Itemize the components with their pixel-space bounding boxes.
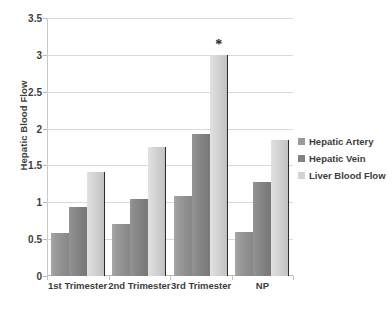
legend-item[interactable]: Liver Blood Flow bbox=[298, 168, 390, 183]
y-tick-mark bbox=[43, 202, 47, 203]
bar-liver-blood-flow bbox=[87, 172, 105, 276]
y-tick-label: 1 bbox=[8, 197, 42, 208]
bar-chart: Hepatic Blood Flow * 00.511.522.533.5 1s… bbox=[0, 0, 392, 312]
bar-hepatic-vein bbox=[69, 207, 87, 276]
y-tick-mark bbox=[43, 239, 47, 240]
legend-label: Liver Blood Flow bbox=[309, 170, 386, 181]
legend-label: Hepatic Vein bbox=[309, 153, 366, 164]
x-tick-mark bbox=[170, 276, 171, 280]
y-tick-label: 2.5 bbox=[8, 86, 42, 97]
chart-legend: Hepatic ArteryHepatic VeinLiver Blood Fl… bbox=[298, 134, 390, 185]
y-tick-mark bbox=[43, 92, 47, 93]
y-tick-label: 3.5 bbox=[8, 13, 42, 24]
bar-group bbox=[232, 18, 294, 276]
x-tick-label: 3rd Trimester bbox=[171, 279, 232, 299]
legend-swatch-icon bbox=[298, 138, 305, 145]
bar-hepatic-artery bbox=[51, 233, 69, 276]
bar-group bbox=[47, 18, 109, 276]
y-tick-mark bbox=[43, 55, 47, 56]
x-tick-label: 2nd Trimester bbox=[108, 279, 170, 299]
y-tick-label: 3 bbox=[8, 49, 42, 60]
x-tick-mark bbox=[293, 276, 294, 280]
y-tick-mark bbox=[43, 18, 47, 19]
bar-hepatic-artery bbox=[174, 196, 192, 276]
x-tick-label: NP bbox=[232, 279, 293, 299]
plot-area: * bbox=[47, 18, 293, 276]
bar-group bbox=[109, 18, 171, 276]
bar-hepatic-artery bbox=[235, 232, 253, 276]
y-tick-mark bbox=[43, 129, 47, 130]
bar-liver-blood-flow bbox=[210, 55, 228, 276]
significance-asterisk: * bbox=[215, 38, 222, 52]
x-tick-mark bbox=[47, 276, 48, 280]
y-tick-label: 0.5 bbox=[8, 234, 42, 245]
legend-label: Hepatic Artery bbox=[309, 136, 374, 147]
bar-liver-blood-flow bbox=[271, 140, 289, 276]
bar-liver-blood-flow bbox=[148, 147, 166, 276]
y-tick-label: 0 bbox=[8, 271, 42, 282]
bar-hepatic-vein bbox=[253, 182, 271, 276]
bar-hepatic-vein bbox=[192, 134, 210, 276]
bar-hepatic-artery bbox=[112, 224, 130, 276]
x-tick-label: 1st Trimester bbox=[47, 279, 108, 299]
bar-group bbox=[170, 18, 232, 276]
x-tick-mark bbox=[232, 276, 233, 280]
y-tick-label: 1.5 bbox=[8, 160, 42, 171]
legend-swatch-icon bbox=[298, 172, 305, 179]
x-tick-mark bbox=[109, 276, 110, 280]
y-tick-mark bbox=[43, 165, 47, 166]
bar-groups bbox=[47, 18, 293, 276]
legend-item[interactable]: Hepatic Artery bbox=[298, 134, 390, 149]
y-tick-label: 2 bbox=[8, 123, 42, 134]
legend-swatch-icon bbox=[298, 155, 305, 162]
x-axis-labels: 1st Trimester2nd Trimester3rd TrimesterN… bbox=[47, 279, 293, 299]
bar-hepatic-vein bbox=[130, 199, 148, 276]
legend-item[interactable]: Hepatic Vein bbox=[298, 151, 390, 166]
